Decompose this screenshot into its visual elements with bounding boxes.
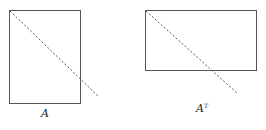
matrix-at-diagonal <box>146 11 237 93</box>
matrix-at-rect <box>146 11 257 71</box>
matrix-a: A <box>10 11 100 121</box>
matrix-a-label: A <box>40 107 49 120</box>
matrix-transpose-diagram: A AT <box>0 0 266 130</box>
matrix-at-label: AT <box>195 102 209 115</box>
transpose-superscript: T <box>204 102 209 109</box>
matrix-a-rect <box>10 11 81 104</box>
matrix-a-diagonal <box>10 11 99 97</box>
matrix-a-transpose: AT <box>146 11 257 116</box>
